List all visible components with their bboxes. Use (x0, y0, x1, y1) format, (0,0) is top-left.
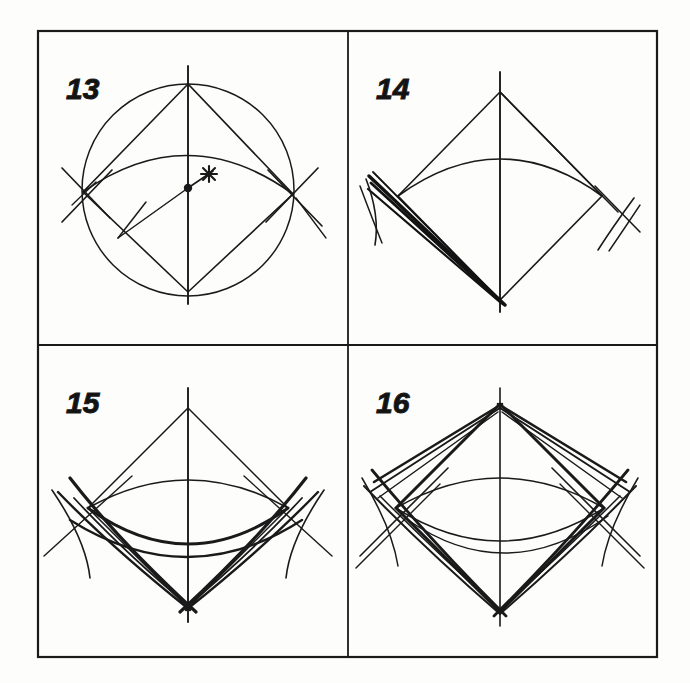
construction-plate: 13 14 (0, 0, 690, 683)
panel-14-label: 14 (376, 72, 410, 105)
panel-13-label: 13 (66, 72, 100, 105)
figure-root: 13 14 (0, 0, 690, 683)
page-background (0, 0, 690, 683)
panel-15-label: 15 (66, 386, 101, 419)
panel-16-label: 16 (376, 386, 410, 419)
panel-13-center-dot (184, 184, 192, 192)
panel-13-star-icon (201, 166, 217, 182)
